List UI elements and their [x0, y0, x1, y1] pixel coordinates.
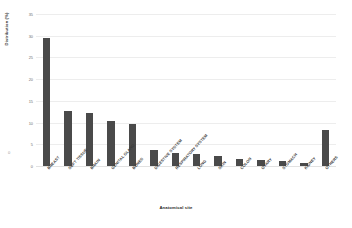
- bars-series: [36, 14, 336, 166]
- y-tick-label-0: 0: [31, 164, 33, 169]
- plot-area: 05101520253035: [36, 14, 336, 166]
- y-tick-label-30: 30: [29, 33, 33, 38]
- bar-chart-figure: Distribution (%) 0 05101520253035 BREAST…: [0, 0, 352, 228]
- y-axis-title: Distribution (%): [4, 0, 9, 74]
- x-axis-tick-labels: BREASTSOFT TISSUEBRAINGENITAL GLANDBONES…: [36, 167, 336, 203]
- y-tick-label-15: 15: [29, 98, 33, 103]
- y-tick-label-35: 35: [29, 12, 33, 17]
- y-axis-origin-mark: 0: [8, 150, 10, 155]
- bar-genital-gland: [107, 121, 115, 166]
- y-tick-label-5: 5: [31, 142, 33, 147]
- bar-soft-tissue: [64, 111, 72, 166]
- x-axis-title: Anatomical site: [0, 205, 352, 210]
- y-tick-label-20: 20: [29, 77, 33, 82]
- y-tick-label-25: 25: [29, 55, 33, 60]
- y-tick-label-10: 10: [29, 120, 33, 125]
- bar-brain: [86, 113, 94, 166]
- bar-breast: [43, 38, 51, 166]
